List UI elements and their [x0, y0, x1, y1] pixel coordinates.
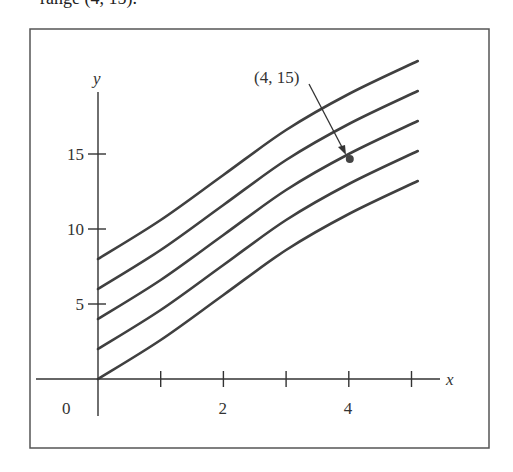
point-marker	[346, 155, 354, 163]
x-tick-label: 4	[344, 399, 353, 418]
axis-ticks: 2451015	[67, 145, 412, 418]
chart: 2451015 x y 0 (4, 15)	[0, 0, 513, 472]
arrowhead-icon	[338, 145, 346, 155]
origin-label: 0	[62, 399, 71, 418]
curve-4	[98, 61, 418, 259]
x-axis-label: x	[445, 370, 454, 389]
y-tick-label: 15	[67, 145, 84, 164]
y-tick-label: 5	[76, 295, 85, 314]
annotation-arrow-line	[309, 84, 344, 151]
annotation-label: (4, 15)	[254, 68, 299, 87]
solution-curves	[98, 61, 418, 379]
curve-3	[98, 91, 418, 289]
y-tick-label: 10	[67, 220, 84, 239]
x-tick-label: 2	[218, 399, 227, 418]
y-axis-label: y	[91, 69, 101, 88]
